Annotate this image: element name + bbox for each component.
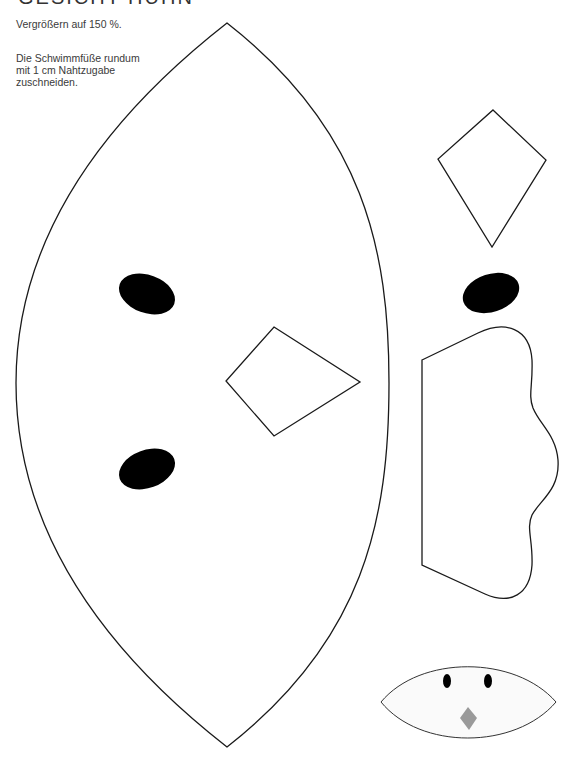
eye-single-icon [458, 266, 525, 320]
eye-bottom-icon [113, 441, 180, 497]
webbed-foot-piece [422, 327, 558, 598]
head-body-piece [16, 23, 389, 747]
beak-small-piece [438, 110, 546, 247]
beak-large-piece [226, 327, 360, 436]
face-eye-right-icon [484, 674, 492, 688]
eye-top-icon [113, 266, 180, 322]
pattern-sheet [0, 0, 573, 764]
face-eye-left-icon [443, 674, 451, 688]
